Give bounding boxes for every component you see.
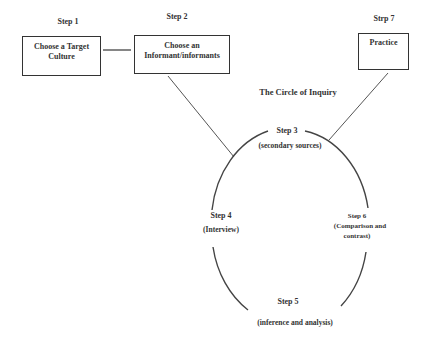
- step-7-box: Practice: [358, 33, 409, 70]
- arc-step6-to-step5: [341, 252, 366, 306]
- step-6-text-line2: contrast): [344, 232, 371, 241]
- circle-of-inquiry-diagram: Step 1 Choose a Target Culture Step 2 Ch…: [0, 0, 427, 347]
- step-7-text: Practice: [359, 38, 408, 48]
- step-2-box: Choose an Informant/informants: [134, 35, 230, 74]
- step-1-box: Choose a Target Culture: [22, 36, 101, 76]
- step-2-text-line2: Informant/informants: [135, 51, 229, 61]
- step-4-text: (Interview): [203, 225, 239, 234]
- connector-step2-circle: [168, 76, 234, 157]
- step-5-text: (inference and analysis): [257, 318, 333, 327]
- inquiry-circle: [212, 131, 368, 310]
- step-1-heading: Step 1: [57, 17, 78, 27]
- diagram-title: The Circle of Inquiry: [259, 87, 337, 98]
- step-5-heading: Step 5: [277, 297, 298, 307]
- step-2-text-line1: Choose an: [135, 41, 229, 51]
- connector-step7-circle: [329, 73, 388, 140]
- arc-step4-to-step5: [213, 247, 248, 310]
- step-6-text-line1: (Comparison and: [334, 222, 386, 231]
- step-4-heading: Step 4: [210, 211, 231, 221]
- step-6-heading: Step 6: [348, 212, 366, 221]
- step-1-text-line2: Culture: [23, 52, 100, 62]
- step-3-text: (secondary sources): [259, 141, 322, 150]
- step-7-heading: Strp 7: [373, 14, 394, 24]
- step-1-text-line1: Choose a Target: [23, 42, 100, 52]
- step-2-heading: Step 2: [166, 12, 187, 22]
- step-3-heading: Step 3: [276, 126, 297, 136]
